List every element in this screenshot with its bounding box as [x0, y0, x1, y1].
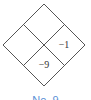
caption: No. 9 — [0, 94, 91, 100]
cell-bottom: −9 — [39, 59, 50, 70]
diamond-grid: −1 −9 — [0, 0, 91, 100]
cell-right: −1 — [59, 39, 70, 50]
